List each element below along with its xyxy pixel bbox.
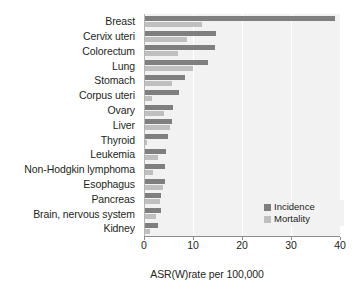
category-label: Brain, nervous system <box>0 206 140 221</box>
category-label: Colorectum <box>0 44 140 59</box>
bar-incidence <box>144 45 215 50</box>
bar-row <box>144 118 340 133</box>
bar-row <box>144 177 340 192</box>
x-axis-title: ASR(W)rate per 100,000 <box>0 268 364 280</box>
category-label: Cervix uteri <box>0 29 140 44</box>
tick-label: 40 <box>334 240 346 251</box>
bar-mortality <box>144 155 158 160</box>
legend-swatch-mortality <box>264 216 271 223</box>
bar-mortality <box>144 96 152 101</box>
legend-swatch-incidence <box>264 204 271 211</box>
tick-label: 20 <box>236 240 248 251</box>
x-axis-ticks: 010203040 <box>144 237 340 251</box>
bar-mortality <box>144 125 170 130</box>
category-label: Ovary <box>0 103 140 118</box>
bar-incidence <box>144 223 158 228</box>
bar-row <box>144 103 340 118</box>
bar-row <box>144 14 340 29</box>
bar-incidence <box>144 149 166 154</box>
category-axis-labels: BreastCervix uteriColorectumLungStomachC… <box>0 14 140 236</box>
bar-row <box>144 132 340 147</box>
bar-incidence <box>144 208 161 213</box>
bar-mortality <box>144 170 153 175</box>
chart-legend: Incidence Mortality <box>262 200 344 226</box>
category-label: Leukemia <box>0 147 140 162</box>
tick-label: 10 <box>187 240 199 251</box>
category-label: Pancreas <box>0 192 140 207</box>
bar-incidence <box>144 105 173 110</box>
bar-incidence <box>144 134 168 139</box>
bar-incidence <box>144 31 216 36</box>
legend-item-incidence: Incidence <box>264 201 342 213</box>
bar-incidence <box>144 179 165 184</box>
bar-incidence <box>144 119 172 124</box>
bar-mortality <box>144 214 156 219</box>
bar-incidence <box>144 16 335 21</box>
bar-mortality <box>144 22 202 27</box>
bar-mortality <box>144 51 178 56</box>
bar-mortality <box>144 66 193 71</box>
category-label: Stomach <box>0 73 140 88</box>
category-label: Liver <box>0 118 140 133</box>
bar-incidence <box>144 60 208 65</box>
bar-row <box>144 162 340 177</box>
bar-mortality <box>144 199 160 204</box>
tick-label: 0 <box>141 240 147 251</box>
bar-row <box>144 88 340 103</box>
bar-mortality <box>144 111 164 116</box>
bar-incidence <box>144 75 185 80</box>
category-label: Thyroid <box>0 132 140 147</box>
bar-mortality <box>144 81 172 86</box>
x-axis-title-text: ASR(W)rate per 100,000 <box>150 268 263 280</box>
legend-label-mortality: Mortality <box>274 213 310 225</box>
y-axis-line <box>144 14 145 236</box>
bar-mortality <box>144 37 187 42</box>
category-label: Lung <box>0 58 140 73</box>
category-label: Esophagus <box>0 177 140 192</box>
bar-incidence <box>144 193 161 198</box>
legend-label-incidence: Incidence <box>274 201 315 213</box>
bar-mortality <box>144 185 163 190</box>
bar-row <box>144 147 340 162</box>
tick-label: 30 <box>285 240 297 251</box>
bar-row <box>144 29 340 44</box>
bar-incidence <box>144 90 179 95</box>
category-label: Kidney <box>0 221 140 236</box>
bar-row <box>144 44 340 59</box>
bar-incidence <box>144 164 165 169</box>
category-label: Non-Hodgkin lymphoma <box>0 162 140 177</box>
bar-chart: BreastCervix uteriColorectumLungStomachC… <box>0 0 364 298</box>
bar-row <box>144 58 340 73</box>
legend-item-mortality: Mortality <box>264 213 342 225</box>
bar-row <box>144 73 340 88</box>
category-label: Corpus uteri <box>0 88 140 103</box>
category-label: Breast <box>0 14 140 29</box>
